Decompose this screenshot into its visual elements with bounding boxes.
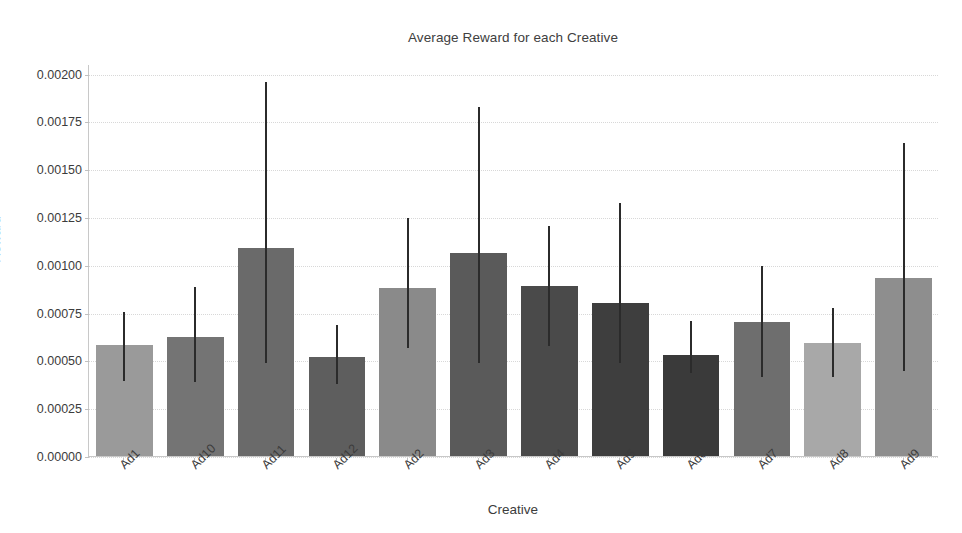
- error-bar: [336, 325, 338, 384]
- y-tick-label: 0.00125: [4, 211, 82, 225]
- chart-title: Average Reward for each Creative: [88, 30, 938, 45]
- chart-figure: Average Reward for each Creative Reward …: [0, 0, 962, 533]
- x-axis-label: Creative: [88, 502, 938, 517]
- y-tick-label: 0.00200: [4, 68, 82, 82]
- error-bar: [194, 287, 196, 383]
- error-bar: [548, 226, 550, 346]
- y-tick-label: 0.00000: [4, 450, 82, 464]
- error-bar: [265, 82, 267, 363]
- error-bar: [690, 321, 692, 373]
- y-tick-mark: [85, 266, 89, 267]
- y-tick-label: 0.00025: [4, 402, 82, 416]
- y-tick-mark: [85, 361, 89, 362]
- gridline: [89, 314, 938, 315]
- error-bar: [903, 143, 905, 371]
- y-tick-mark: [85, 314, 89, 315]
- y-tick-mark: [85, 170, 89, 171]
- y-tick-label: 0.00050: [4, 354, 82, 368]
- error-bar: [123, 312, 125, 381]
- error-bar: [619, 203, 621, 364]
- error-bar: [478, 107, 480, 363]
- x-axis-tick-labels: Ad1Ad10Ad11Ad12Ad2Ad3Ad4Ad5Ad6Ad7Ad8Ad9: [88, 458, 938, 504]
- gridline: [89, 266, 938, 267]
- gridline: [89, 75, 938, 76]
- error-bar: [407, 218, 409, 348]
- gridline: [89, 170, 938, 171]
- plot-area: [88, 65, 938, 457]
- gridline: [89, 218, 938, 219]
- y-tick-label: 0.00175: [4, 115, 82, 129]
- error-bar: [832, 308, 834, 377]
- y-tick-label: 0.00075: [4, 307, 82, 321]
- y-tick-label: 0.00100: [4, 259, 82, 273]
- y-tick-mark: [85, 75, 89, 76]
- y-tick-mark: [85, 122, 89, 123]
- y-tick-mark: [85, 218, 89, 219]
- y-axis-tick-labels: 0.000000.000250.000500.000750.001000.001…: [0, 65, 82, 457]
- y-tick-label: 0.00150: [4, 163, 82, 177]
- gridline: [89, 122, 938, 123]
- y-tick-mark: [85, 409, 89, 410]
- error-bar: [761, 266, 763, 377]
